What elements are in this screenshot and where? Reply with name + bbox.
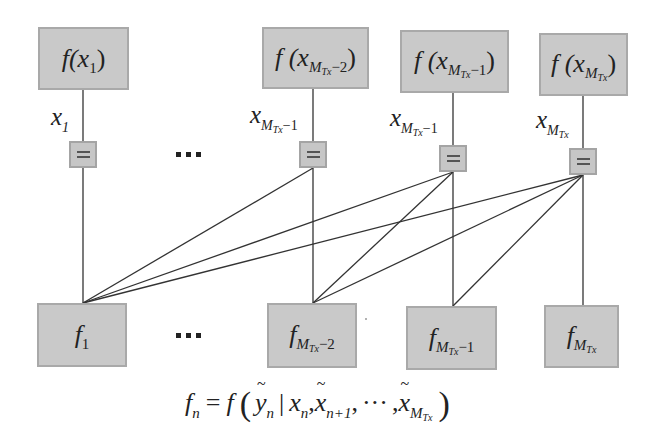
func-base: f xyxy=(567,321,574,350)
sub-sub: Tx xyxy=(597,72,607,83)
sub-sub: Tx xyxy=(559,129,569,140)
edge-eq3-fMTx-2 xyxy=(313,172,453,303)
equals-bar xyxy=(577,158,590,160)
equals-bar xyxy=(447,160,460,162)
variable-label-x1: x1 xyxy=(51,104,69,129)
sub-tail: −1 xyxy=(423,121,438,136)
var-sub: MTx xyxy=(547,123,569,138)
sub-main: M xyxy=(410,405,423,421)
sub-sub: Tx xyxy=(273,124,283,135)
sub-main: M xyxy=(574,337,587,353)
stray-dot xyxy=(365,318,367,320)
sub-tail: −1 xyxy=(458,339,474,355)
subscript: MTx xyxy=(585,65,608,81)
dot xyxy=(176,333,181,338)
subscript: MTx−1 xyxy=(448,62,486,78)
sub-main: M xyxy=(309,59,322,75)
sub-main: M xyxy=(436,339,449,355)
equals-bar xyxy=(307,151,320,153)
bottom-node-f1: f1 xyxy=(37,303,127,367)
subscript: MTx xyxy=(574,337,597,353)
formula-func: f xyxy=(226,388,233,417)
equals-bar xyxy=(77,151,90,153)
formula-y-tilde: y xyxy=(255,390,267,416)
sub-tail: −1 xyxy=(283,118,298,133)
edge-eq3-f1 xyxy=(83,172,453,303)
sub-main: M xyxy=(401,121,413,136)
func-label: f (x xyxy=(414,46,448,75)
equality-node-4 xyxy=(569,148,597,175)
ellipsis-bottom xyxy=(176,333,201,338)
sub-tail: −1 xyxy=(470,62,486,78)
subscript: MTx−2 xyxy=(296,336,334,352)
sub-main: M xyxy=(585,65,598,81)
equals-bar xyxy=(77,156,90,158)
dot xyxy=(186,333,191,338)
bottom-node-fMTx: fMTx xyxy=(544,305,619,368)
var-base: x xyxy=(250,101,261,128)
edge-eq4-fMTx-2 xyxy=(313,175,583,303)
func-label: f (x xyxy=(551,49,585,78)
variable-label-xMTx-1-a: xMTx−1 xyxy=(250,102,298,130)
sub-sub: Tx xyxy=(321,66,331,77)
func-label: f (x xyxy=(275,43,309,72)
subscript: 1 xyxy=(82,336,90,352)
bottom-node-fMTx-1: fMTx−1 xyxy=(406,306,497,370)
sub-tail: −2 xyxy=(319,336,335,352)
var-sub: MTx−1 xyxy=(401,121,438,136)
dot xyxy=(196,152,201,157)
top-node-f-xMTx-2: f (xMTx−2) xyxy=(262,27,369,89)
sub-sub: Tx xyxy=(460,69,470,80)
var-base: x xyxy=(536,106,547,133)
formula-y-sub: n xyxy=(267,405,275,421)
close-paren: ) xyxy=(486,46,495,75)
func-base: f xyxy=(429,323,436,352)
formula-x-tilde-sub: n+1 xyxy=(326,405,351,421)
close-paren: ) xyxy=(347,43,356,72)
variable-label-xMTx-1-b: xMTx−1 xyxy=(390,105,438,133)
close-paren: ) xyxy=(97,44,106,73)
formula-x-tilde: x xyxy=(315,390,327,416)
close-paren: ) xyxy=(607,49,616,78)
var-base: x xyxy=(390,104,401,131)
edge-eq4-fMTx-1 xyxy=(453,175,583,306)
formula-given-bar: | xyxy=(274,388,289,417)
formula-x-tilde-last-sub: MTx xyxy=(410,405,433,421)
equals-bar xyxy=(307,156,320,158)
equality-node-2 xyxy=(299,141,327,168)
variable-label-xMTx: xMTx xyxy=(536,107,569,135)
bottom-node-fMTx-2: fMTx−2 xyxy=(267,303,357,368)
formula-x: x xyxy=(289,388,301,417)
sub-tail: −2 xyxy=(331,59,347,75)
formula-equals: = xyxy=(200,388,227,417)
sub-sub: Tx xyxy=(422,412,432,423)
sub-main: M xyxy=(261,118,273,133)
top-node-f-xMTx: f (xMTx) xyxy=(539,33,628,96)
equality-node-3 xyxy=(439,145,467,172)
var-sub: 1 xyxy=(62,120,69,135)
sub-main: M xyxy=(448,62,461,78)
sub-sub: Tx xyxy=(586,344,596,355)
formula-dots: ··· xyxy=(358,388,392,417)
equality-node-1 xyxy=(69,141,97,168)
sub-sub: Tx xyxy=(448,346,458,357)
sub-sub: Tx xyxy=(413,127,423,138)
sub-sub: Tx xyxy=(309,343,319,354)
equals-bar xyxy=(447,155,460,157)
formula-comma: , xyxy=(351,388,358,417)
var-base: x xyxy=(51,103,62,130)
top-node-f-xMTx-1: f (xMTx−1) xyxy=(400,30,509,93)
dot xyxy=(196,333,201,338)
formula-lhs-sub: n xyxy=(192,405,200,421)
subscript: MTx−1 xyxy=(436,339,474,355)
func-label: f(x xyxy=(62,44,89,73)
edge-eq2-f1 xyxy=(83,168,313,303)
dot xyxy=(176,152,181,157)
subscript: MTx−2 xyxy=(309,59,347,75)
dot xyxy=(186,152,191,157)
factor-formula: fn=f(yn|xn,xn+1,···,xMTx) xyxy=(185,387,450,421)
sub-main: M xyxy=(296,336,309,352)
equals-bar xyxy=(577,163,590,165)
subscript: 1 xyxy=(89,60,97,76)
var-sub: MTx−1 xyxy=(261,118,298,133)
